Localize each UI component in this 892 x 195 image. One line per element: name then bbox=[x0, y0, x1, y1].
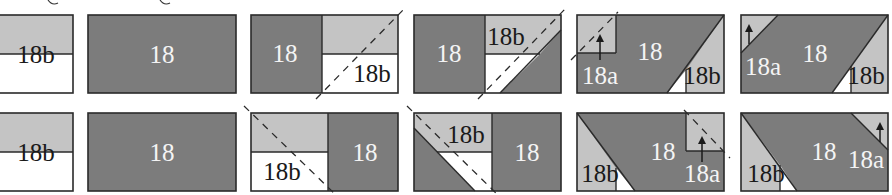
unit-label: 18 bbox=[812, 138, 837, 165]
top-step-6: 18a 18 18b bbox=[741, 15, 888, 93]
unit-label: 18b bbox=[17, 41, 55, 68]
bottom-step-5: 18b 18 18a bbox=[577, 110, 730, 191]
top-step-4: 18 18b bbox=[414, 8, 566, 99]
unit-label: 18 bbox=[353, 139, 378, 166]
unit-label: 18b bbox=[353, 60, 391, 87]
unit-label: 18 bbox=[150, 139, 175, 166]
top-step-3: 18 18b bbox=[251, 8, 405, 99]
unit-label: 18 bbox=[515, 139, 540, 166]
unit-label: 18b bbox=[747, 160, 785, 187]
unit-label: 18 bbox=[638, 38, 663, 65]
bottom-step-3: 18b 18 bbox=[244, 106, 398, 195]
unit-label: 18b bbox=[263, 158, 301, 185]
unit-label: 18 bbox=[437, 40, 462, 67]
cropped-glyph bbox=[160, 0, 170, 4]
unit-label: 18b bbox=[17, 139, 55, 166]
bottom-step-6: 18b 18 18a bbox=[741, 113, 888, 191]
top-step-2: 18 bbox=[88, 15, 236, 93]
unit-label: 18 bbox=[150, 41, 175, 68]
unit-label: 18 bbox=[273, 40, 298, 67]
unit-label: 18b bbox=[487, 23, 525, 50]
bottom-step-1: 18b bbox=[0, 113, 73, 191]
unit-label: 18a bbox=[582, 62, 618, 89]
bottom-step-2: 18 bbox=[88, 113, 236, 191]
unit-label: 18b bbox=[847, 62, 885, 89]
quilt-diagram: 18b 18 18 18b 18 18b bbox=[0, 0, 892, 195]
cropped-glyph bbox=[48, 0, 58, 4]
bottom-step-4: 18b 18 bbox=[407, 106, 561, 195]
unit-label: 18a bbox=[684, 160, 720, 187]
unit-label: 18b bbox=[447, 121, 485, 148]
unit-label: 18b bbox=[581, 160, 619, 187]
unit-label: 18 bbox=[651, 138, 676, 165]
unit-label: 18b bbox=[683, 62, 721, 89]
unit-label: 18 bbox=[803, 40, 828, 67]
top-step-5: 18a 18 18b bbox=[571, 12, 724, 93]
unit-label: 18a bbox=[848, 146, 884, 173]
top-step-1: 18b bbox=[0, 15, 73, 93]
unit-label: 18a bbox=[745, 53, 781, 80]
